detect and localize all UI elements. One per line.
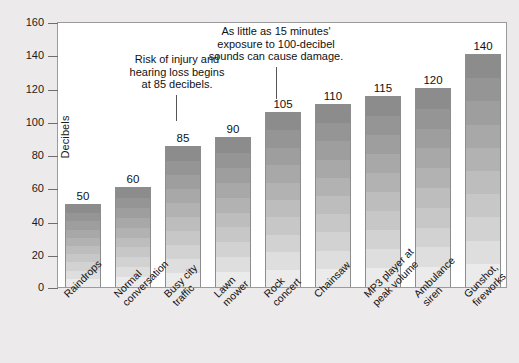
y-axis-tick: 60 bbox=[48, 189, 58, 190]
y-axis-tick-label: 100 bbox=[26, 116, 44, 128]
annotation-leader-line-85db bbox=[176, 95, 177, 121]
bar-rock-concert: 105 bbox=[265, 112, 301, 287]
bar-gunshot-fireworks: 140 bbox=[465, 54, 501, 287]
bar-value-label: 120 bbox=[423, 74, 442, 86]
annotation-leader-line-100db bbox=[276, 67, 277, 99]
y-axis-tick-label: 60 bbox=[32, 182, 44, 194]
y-axis-tick: 0 bbox=[48, 288, 58, 289]
y-axis-tick-label: 140 bbox=[26, 49, 44, 61]
plot-area: Decibels 160 140 120 100 80 60 40 20 0 bbox=[57, 22, 507, 288]
y-axis-tick-label: 160 bbox=[26, 16, 44, 28]
bar-value-label: 110 bbox=[324, 90, 342, 102]
bar-value-label: 50 bbox=[77, 190, 90, 202]
y-axis-title: Decibels bbox=[59, 77, 71, 197]
y-axis-tick: 140 bbox=[48, 56, 58, 57]
y-axis-tick: 100 bbox=[48, 123, 58, 124]
bar-value-label: 115 bbox=[374, 82, 392, 94]
y-axis-tick: 120 bbox=[48, 90, 58, 91]
y-axis-tick: 160 bbox=[48, 23, 58, 24]
y-axis-tick: 20 bbox=[48, 256, 58, 257]
chart-figure: Decibels 160 140 120 100 80 60 40 20 0 bbox=[0, 0, 519, 363]
y-axis-tick: 40 bbox=[48, 223, 58, 224]
annotation-100db: As little as 15 minutes' exposure to 100… bbox=[200, 25, 352, 63]
y-axis-tick: 80 bbox=[48, 156, 58, 157]
bar-value-label: 105 bbox=[273, 98, 292, 110]
y-axis-tick-label: 20 bbox=[32, 249, 44, 261]
bar-lawn-mower: 90 bbox=[215, 137, 251, 287]
y-axis-tick-label: 0 bbox=[38, 281, 44, 293]
y-axis-tick-label: 120 bbox=[26, 83, 44, 95]
bar-value-label: 90 bbox=[227, 123, 240, 135]
y-axis-tick-label: 40 bbox=[32, 216, 44, 228]
bar-value-label: 140 bbox=[473, 40, 492, 52]
bar-value-label: 85 bbox=[177, 132, 190, 144]
y-axis-tick-label: 80 bbox=[32, 149, 44, 161]
bar-value-label: 60 bbox=[127, 173, 140, 185]
